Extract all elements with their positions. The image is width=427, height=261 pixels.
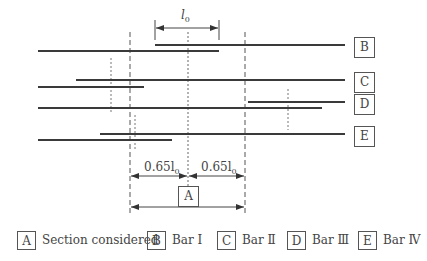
bar-e: [38, 134, 345, 140]
right-half-text: 0.65l: [201, 160, 232, 174]
bar-d: [38, 102, 345, 108]
legend-item-c: C Bar Ⅱ: [217, 229, 276, 251]
legend-text-e: Bar Ⅳ: [383, 233, 421, 247]
left-half-text: 0.65l: [144, 160, 175, 174]
l0-label: l0: [181, 8, 190, 24]
bar-b-label-box: B: [354, 37, 375, 58]
legend-key-d: D: [287, 231, 306, 250]
left-half-subscript: 0: [175, 167, 180, 176]
bar-e-label-box: E: [354, 126, 375, 147]
bar-d-label-box: D: [354, 94, 375, 115]
legend-key-e: E: [358, 231, 377, 250]
right-half-label: 0.65l0: [201, 160, 237, 176]
legend-text-d: Bar Ⅲ: [312, 233, 349, 247]
legend-key-a: A: [17, 231, 36, 250]
legend: A Section considered B Bar Ⅰ C Bar Ⅱ D B…: [0, 229, 427, 251]
legend-text-a: Section considered: [42, 233, 158, 247]
legend-text-b: Bar Ⅰ: [172, 233, 202, 247]
bar-b: [38, 45, 345, 51]
legend-key-b: B: [147, 231, 166, 250]
legend-item-e: E Bar Ⅳ: [358, 229, 421, 251]
bar-c: [38, 80, 345, 87]
left-half-label: 0.65l0: [144, 160, 180, 176]
legend-item-b: B Bar Ⅰ: [147, 229, 202, 251]
legend-text-c: Bar Ⅱ: [242, 233, 276, 247]
legend-item-a: A Section considered: [17, 229, 158, 251]
legend-item-d: D Bar Ⅲ: [287, 229, 349, 251]
l0-subscript: 0: [185, 15, 190, 24]
legend-key-c: C: [217, 231, 236, 250]
section-a-label-box: A: [178, 186, 199, 207]
right-half-subscript: 0: [232, 167, 237, 176]
bar-c-label-box: C: [354, 72, 375, 93]
